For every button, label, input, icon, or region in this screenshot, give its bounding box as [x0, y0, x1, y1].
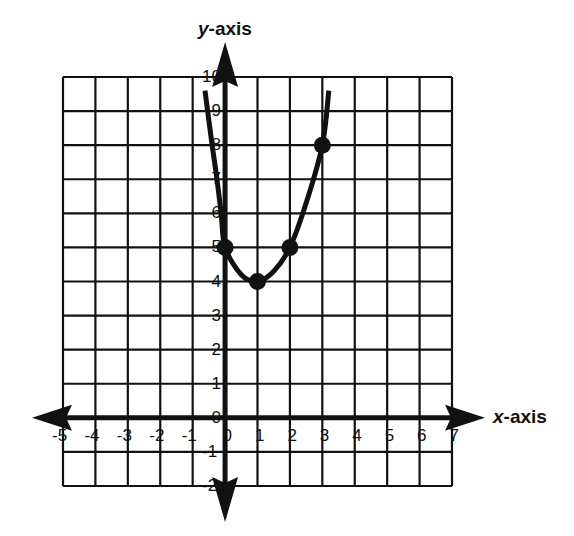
data-point	[249, 273, 266, 290]
y-axis-title: y-axis	[198, 18, 252, 40]
x-axis-title-rest: -axis	[504, 406, 547, 427]
x-tick-label: 4	[352, 427, 361, 444]
y-tick-label: 2	[212, 341, 221, 358]
x-tick-label: -3	[117, 427, 132, 444]
y-tick-label: -2	[202, 477, 217, 494]
y-tick-label: 5	[212, 238, 221, 255]
y-tick-label: 1	[212, 375, 221, 392]
y-tick-label: 0	[212, 409, 221, 426]
x-axis-title: x-axis	[493, 406, 547, 428]
x-tick-label: -2	[149, 427, 164, 444]
x-tick-label: -1	[182, 427, 197, 444]
y-tick-label: 6	[212, 204, 221, 221]
y-axis-title-var: y	[198, 18, 209, 39]
y-tick-label: 4	[212, 273, 221, 290]
x-tick-label: 3	[320, 427, 329, 444]
y-tick-label: -1	[202, 443, 217, 460]
y-tick-label: 8	[212, 136, 221, 153]
x-tick-label: 1	[255, 427, 264, 444]
x-axis-title-var: x	[493, 406, 504, 427]
x-tick-label: 0	[223, 427, 232, 444]
data-point	[281, 239, 298, 256]
y-tick-label: 9	[212, 102, 221, 119]
y-tick-label: 3	[212, 307, 221, 324]
y-tick-label: 7	[212, 170, 221, 187]
coordinate-plane	[0, 0, 574, 536]
x-tick-label: -5	[52, 427, 67, 444]
x-tick-label: 7	[450, 427, 459, 444]
data-point	[314, 137, 331, 154]
x-tick-label: -4	[84, 427, 99, 444]
x-tick-label: 2	[287, 427, 296, 444]
x-tick-label: 6	[417, 427, 426, 444]
y-axis-title-rest: -axis	[209, 18, 252, 39]
x-tick-label: 5	[385, 427, 394, 444]
y-tick-label: 10	[202, 68, 221, 85]
